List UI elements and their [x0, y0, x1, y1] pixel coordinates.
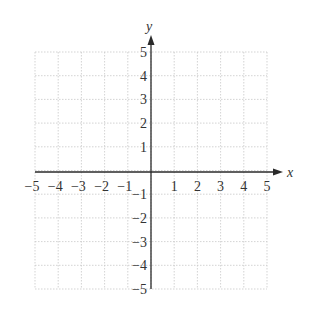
x-tick-label: 2 — [194, 179, 201, 194]
x-axis-label: x — [286, 165, 294, 180]
y-axis-label: y — [144, 19, 153, 34]
x-tick-label: −4 — [48, 179, 63, 194]
y-tick-label: −3 — [132, 235, 147, 250]
y-tick-label: −5 — [132, 282, 147, 297]
y-axis-arrow-icon — [148, 35, 155, 45]
x-tick-labels: −5−4−3−2−112345 — [25, 179, 271, 194]
x-tick-label: 5 — [264, 179, 271, 194]
x-tick-label: −5 — [25, 179, 40, 194]
y-tick-label: 2 — [140, 116, 147, 131]
x-tick-label: 3 — [217, 179, 224, 194]
y-tick-label: −2 — [132, 211, 147, 226]
coordinate-plane: x y −5−4−3−2−112345 −5−4−3−2−112345 — [0, 0, 311, 316]
y-tick-label: 1 — [140, 140, 147, 155]
x-tick-label: 1 — [171, 179, 178, 194]
axes: x y — [35, 19, 294, 289]
x-tick-label: −1 — [117, 179, 132, 194]
y-tick-labels: −5−4−3−2−112345 — [132, 45, 147, 297]
x-tick-label: −2 — [94, 179, 109, 194]
y-tick-label: −4 — [132, 258, 147, 273]
y-tick-label: 5 — [140, 45, 147, 60]
y-tick-label: 4 — [140, 69, 147, 84]
x-axis-arrow-icon — [273, 169, 283, 176]
y-tick-label: −1 — [132, 187, 147, 202]
x-tick-label: 4 — [240, 179, 247, 194]
x-tick-label: −3 — [71, 179, 86, 194]
y-tick-label: 3 — [140, 92, 147, 107]
